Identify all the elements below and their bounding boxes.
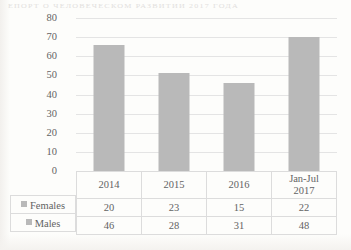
y-tick-label-10: 10	[17, 147, 57, 157]
category-label-line: Jan-Jul	[272, 173, 336, 185]
y-tick-label-30: 30	[17, 109, 57, 119]
bar-slot-2016	[207, 18, 272, 171]
table-row: 20231522	[77, 199, 337, 217]
bar-slot-2015	[141, 18, 206, 171]
legend-entry-females[interactable]: Females	[11, 196, 76, 214]
bar-2016[interactable]	[224, 83, 255, 171]
legend-entry-males[interactable]: Males	[11, 214, 76, 232]
value-cell-males-jan-jul-2017: 48	[272, 217, 337, 235]
table-row: 46283148	[77, 217, 337, 235]
y-tick-label-60: 60	[17, 51, 57, 61]
y-tick-label-70: 70	[17, 32, 57, 42]
bars-group	[76, 18, 337, 171]
y-tick-label-20: 20	[17, 128, 57, 138]
category-label-line: 2014	[77, 179, 141, 191]
category-label-line: 2017	[272, 185, 336, 197]
legend-row: Females	[11, 196, 76, 214]
chart-data-table: 201420152016Jan-Jul2017 2023152246283148	[76, 171, 337, 235]
legend-column: FemalesMales	[10, 195, 76, 232]
legend-swatch-males-icon	[26, 219, 32, 225]
category-cell-2016: 2016	[207, 172, 272, 199]
category-cell-2015: 2015	[142, 172, 207, 199]
legend-row: Males	[11, 214, 76, 232]
category-cell-jan-jul-2017: Jan-Jul2017	[272, 172, 337, 199]
bar-jan-jul-2017[interactable]	[289, 37, 320, 171]
y-tick-label-0: 0	[17, 166, 57, 176]
legend-swatch-females-icon	[21, 201, 27, 207]
category-label-line: 2015	[142, 179, 206, 191]
bar-2014[interactable]	[93, 45, 124, 171]
value-cell-females-2014: 20	[77, 199, 142, 217]
category-header-row: 201420152016Jan-Jul2017	[77, 172, 337, 199]
column-chart-with-data-table: 80706050403020100 FemalesMales 201420152…	[0, 0, 351, 250]
bar-slot-jan-jul-2017	[272, 18, 337, 171]
y-tick-label-80: 80	[17, 13, 57, 23]
value-cell-females-jan-jul-2017: 22	[272, 199, 337, 217]
y-tick-label-40: 40	[17, 90, 57, 100]
legend-label-females: Females	[30, 200, 65, 211]
value-cell-females-2015: 23	[142, 199, 207, 217]
value-cell-males-2016: 31	[207, 217, 272, 235]
plot-area: 80706050403020100	[76, 18, 337, 171]
bar-2015[interactable]	[158, 73, 189, 171]
value-cell-males-2014: 46	[77, 217, 142, 235]
value-cell-males-2015: 28	[142, 217, 207, 235]
legend-label-males: Males	[35, 218, 61, 229]
category-cell-2014: 2014	[77, 172, 142, 199]
bar-slot-2014	[76, 18, 141, 171]
category-label-line: 2016	[207, 179, 271, 191]
y-tick-label-50: 50	[17, 70, 57, 80]
value-cell-females-2016: 15	[207, 199, 272, 217]
